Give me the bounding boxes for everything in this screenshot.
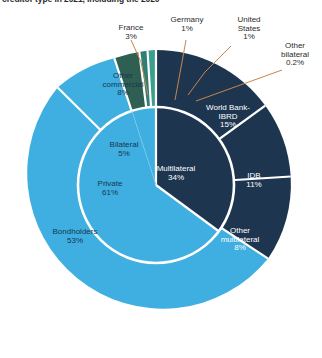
callout-label-france-line1: France bbox=[119, 23, 144, 32]
slice-label-private-name: Private bbox=[98, 179, 123, 188]
slice-label-world-bank-ibrd-value: 15% bbox=[182, 121, 274, 130]
callout-label-germany: Germany 1% bbox=[156, 16, 218, 33]
slice-label-bilateral: Bilateral 5% bbox=[82, 141, 166, 158]
chart-figure: creditor type in 2021, including the 202… bbox=[0, 0, 322, 358]
callout-label-germany-value: 1% bbox=[156, 25, 218, 34]
callout-label-united-states-line1: United bbox=[237, 15, 260, 24]
slice-label-world-bank-ibrd-line1: World Bank- bbox=[206, 103, 250, 112]
callout-label-other-bilateral: Other bilateral 0.2% bbox=[268, 42, 322, 68]
slice-label-other-commercial-value: 8% bbox=[78, 89, 168, 98]
callout-label-united-states: United States 1% bbox=[222, 16, 276, 42]
slice-label-world-bank-ibrd: World Bank- IBRD 15% bbox=[182, 104, 274, 130]
slice-label-other-multilateral-value: 8% bbox=[198, 244, 282, 253]
slice-label-idb-name: IDB bbox=[247, 171, 260, 180]
callout-label-other-bilateral-value: 0.2% bbox=[268, 59, 322, 68]
slice-label-private: Private 61% bbox=[66, 180, 154, 197]
slice-label-multilateral-value: 34% bbox=[134, 174, 218, 183]
callout-label-france-value: 3% bbox=[100, 33, 162, 42]
callout-label-united-states-value: 1% bbox=[222, 33, 276, 42]
slice-label-other-commercial: Other commercial 8% bbox=[78, 72, 168, 98]
slice-label-idb-value: 11% bbox=[224, 181, 284, 190]
slice-label-multilateral-name: Multilateral bbox=[157, 164, 196, 173]
slice-label-multilateral: Multilateral 34% bbox=[134, 165, 218, 182]
slice-label-other-multilateral: Other multilateral 8% bbox=[198, 227, 282, 253]
slice-label-bondholders: Bondholders 53% bbox=[20, 228, 130, 245]
slice-label-other-multilateral-line1: Other bbox=[230, 226, 250, 235]
slice-label-bilateral-name: Bilateral bbox=[110, 140, 139, 149]
callout-label-germany-line1: Germany bbox=[171, 15, 204, 24]
slice-label-other-commercial-line1: Other bbox=[113, 71, 133, 80]
slice-label-bilateral-value: 5% bbox=[82, 150, 166, 159]
slice-label-bondholders-value: 53% bbox=[20, 237, 130, 246]
slice-label-bondholders-name: Bondholders bbox=[53, 227, 98, 236]
slice-label-idb: IDB 11% bbox=[224, 172, 284, 189]
callout-label-other-bilateral-line1: Other bbox=[285, 41, 305, 50]
callout-label-france: France 3% bbox=[100, 24, 162, 41]
slice-label-private-value: 61% bbox=[66, 189, 154, 198]
